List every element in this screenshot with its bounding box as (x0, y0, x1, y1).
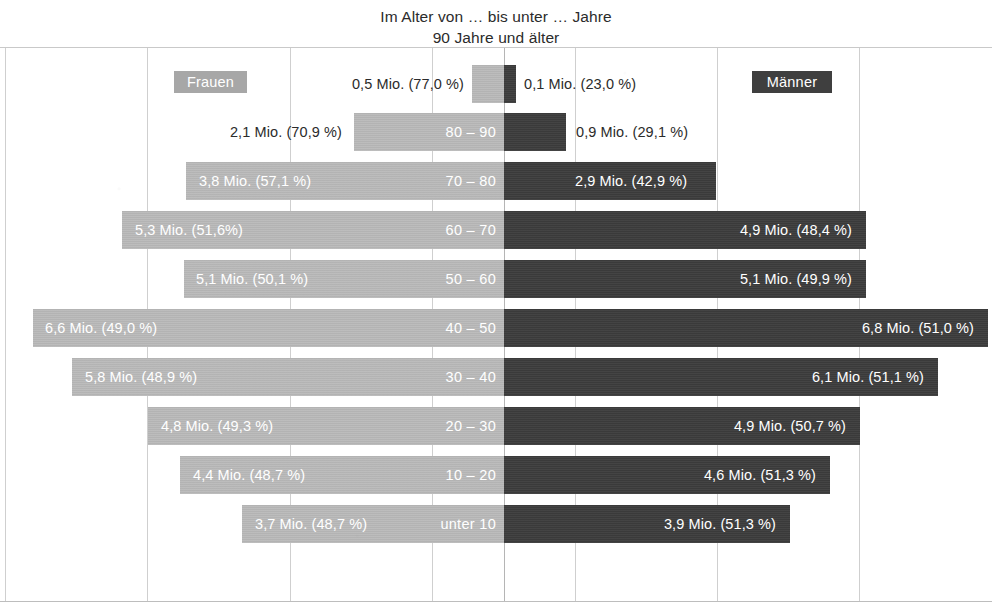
table-row[interactable]: 3,8 Mio. (57,1 %) 70 – 80 2,9 Mio. (42,9… (0, 162, 992, 200)
value-label-maenner: 3,9 Mio. (51,3 %) (524, 505, 776, 543)
value-label-maenner: 4,6 Mio. (51,3 %) (564, 456, 816, 494)
chart-title-block: Im Alter von … bis unter … Jahre 90 Jahr… (0, 6, 992, 48)
table-row[interactable]: 3,7 Mio. (48,7 %) unter 10 3,9 Mio. (51,… (0, 505, 992, 543)
value-label-frauen: 2,1 Mio. (70,9 %) (110, 113, 342, 151)
table-row[interactable]: 5,1 Mio. (50,1 %) 50 – 60 5,1 Mio. (49,9… (0, 260, 992, 298)
value-label-maenner: 2,9 Mio. (42,9 %) (575, 162, 815, 200)
chart-top-border (0, 47, 992, 48)
value-label-maenner: 5,1 Mio. (49,9 %) (600, 260, 852, 298)
value-label-frauen: 4,8 Mio. (49,3 %) (161, 407, 421, 445)
bar-maenner (504, 65, 516, 103)
age-group-label: 40 – 50 (400, 309, 496, 347)
table-row[interactable]: 4,4 Mio. (48,7 %) 10 – 20 4,6 Mio. (51,3… (0, 456, 992, 494)
age-group-label: 60 – 70 (400, 211, 496, 249)
value-label-maenner: 0,1 Mio. (23,0 %) (524, 65, 764, 103)
table-row[interactable]: 4,8 Mio. (49,3 %) 20 – 30 4,9 Mio. (50,7… (0, 407, 992, 445)
value-label-frauen: 5,8 Mio. (48,9 %) (85, 358, 345, 396)
value-label-maenner: 4,9 Mio. (48,4 %) (600, 211, 852, 249)
table-row[interactable]: 6,6 Mio. (49,0 %) 40 – 50 6,8 Mio. (51,0… (0, 309, 992, 347)
chart-bottom-border (0, 601, 992, 602)
age-group-label: 20 – 30 (400, 407, 496, 445)
age-group-label: 80 – 90 (400, 113, 496, 151)
value-label-maenner: 0,9 Mio. (29,1 %) (576, 113, 816, 151)
age-group-label: unter 10 (400, 505, 496, 543)
bar-frauen (472, 65, 504, 103)
value-label-frauen: 6,6 Mio. (49,0 %) (45, 309, 305, 347)
bar-maenner (504, 113, 566, 151)
chart-title: Im Alter von … bis unter … Jahre (0, 6, 992, 27)
chart-subtitle-top-category: 90 Jahre und älter (0, 27, 992, 48)
table-row[interactable]: 5,3 Mio. (51,6%) 60 – 70 4,9 Mio. (48,4 … (0, 211, 992, 249)
age-group-label: 70 – 80 (400, 162, 496, 200)
value-label-frauen: 5,3 Mio. (51,6%) (135, 211, 395, 249)
value-label-maenner: 6,8 Mio. (51,0 %) (722, 309, 974, 347)
age-group-label: 30 – 40 (400, 358, 496, 396)
value-label-frauen: 0,5 Mio. (77,0 %) (232, 65, 464, 103)
value-label-maenner: 4,9 Mio. (50,7 %) (594, 407, 846, 445)
table-row[interactable]: 5,8 Mio. (48,9 %) 30 – 40 6,1 Mio. (51,1… (0, 358, 992, 396)
table-row[interactable]: 2,1 Mio. (70,9 %) 80 – 90 0,9 Mio. (29,1… (0, 113, 992, 151)
age-group-label: 10 – 20 (400, 456, 496, 494)
age-group-label: 50 – 60 (400, 260, 496, 298)
value-label-maenner: 6,1 Mio. (51,1 %) (672, 358, 924, 396)
table-row[interactable]: 0,5 Mio. (77,0 %) 0,1 Mio. (23,0 %) (0, 65, 992, 103)
population-pyramid-chart: Frauen Männer 0,5 Mio. (77,0 %) 0,1 Mio.… (0, 47, 992, 603)
